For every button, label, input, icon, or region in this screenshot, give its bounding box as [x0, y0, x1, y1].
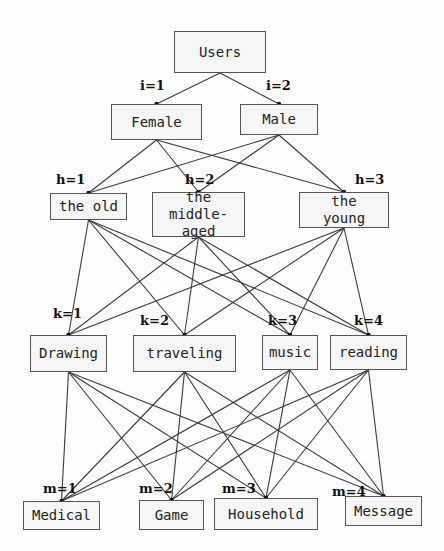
node-game: Game [139, 500, 204, 530]
node-the-old: the old [50, 193, 127, 220]
node-drawing: Drawing [30, 335, 107, 372]
index-label-m3: m=3 [222, 481, 256, 496]
node-female: Female [111, 104, 202, 140]
index-label-k4: k=4 [354, 313, 383, 328]
node-reading: reading [330, 335, 407, 370]
node-message: Message [345, 496, 422, 526]
index-label-k3: k=3 [268, 313, 297, 328]
node-male: Male [240, 104, 318, 135]
node-household: Household [214, 498, 318, 530]
connection-edges [0, 0, 444, 551]
index-label-m2: m=2 [139, 481, 173, 496]
index-label-m4: m=4 [332, 484, 366, 499]
node-the-middle-aged: the middle- aged [152, 192, 245, 237]
node-medical: Medical [23, 501, 100, 530]
index-label-k2: k=2 [140, 313, 169, 328]
index-label-i2: i=2 [266, 78, 291, 93]
index-label-h3: h=3 [355, 172, 384, 187]
node-users: Users [174, 31, 266, 73]
node-the-young: the young [299, 192, 389, 228]
index-label-k1: k=1 [53, 306, 82, 321]
index-label-h1: h=1 [56, 172, 85, 187]
index-label-m1: m=1 [43, 481, 77, 496]
node-traveling: traveling [133, 335, 236, 372]
hierarchy-diagram: Users Female i=1 Male i=2 the old h=1 th… [0, 0, 444, 551]
index-label-i1: i=1 [140, 78, 165, 93]
node-music: music [262, 335, 318, 370]
index-label-h2: h=2 [185, 172, 214, 187]
